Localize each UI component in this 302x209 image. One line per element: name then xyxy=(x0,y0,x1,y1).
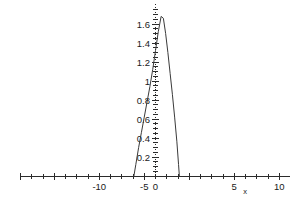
x-tick-label-neg5: -5 xyxy=(140,181,148,192)
x-axis-label: x xyxy=(243,187,247,196)
plot-screenshot: -10 -5 0 5 10 x 0.2 0.4 0.6 0.8 1 1.2 1.… xyxy=(0,0,302,209)
y-tick-label-1-6: 1.6 xyxy=(137,19,150,30)
x-tick-label-pos5: 5 xyxy=(232,181,237,192)
x-tick-label-pos10: 10 xyxy=(274,181,285,192)
x-tick-label-neg10: -10 xyxy=(92,181,106,192)
y-tick-label-0-4: 0.4 xyxy=(137,133,150,144)
x-tick-label-zero: 0 xyxy=(153,181,158,192)
y-tick-label-1-4: 1.4 xyxy=(137,38,150,49)
y-tick-label-0-2: 0.2 xyxy=(137,152,150,163)
y-tick-label-1-2: 1.2 xyxy=(137,57,150,68)
function-plot: -10 -5 0 5 10 x 0.2 0.4 0.6 0.8 1 1.2 1.… xyxy=(0,0,302,209)
y-tick-label-1: 1 xyxy=(145,76,150,87)
